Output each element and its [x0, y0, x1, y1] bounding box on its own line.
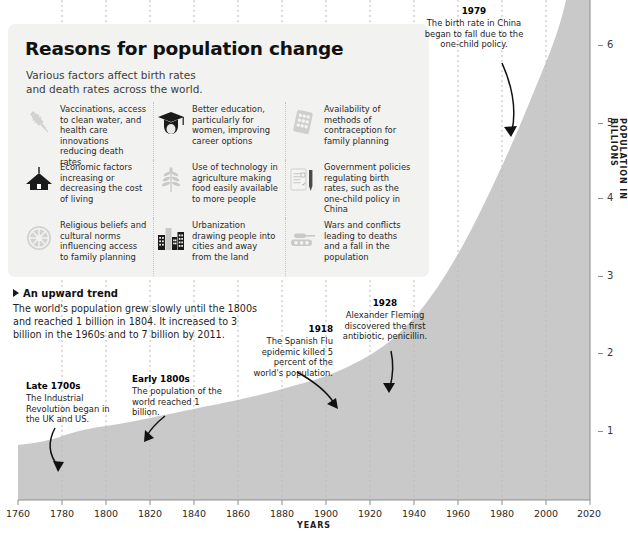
x-tick-1820: 1820: [138, 508, 162, 519]
x-tick-1980: 1980: [490, 508, 514, 519]
page-title: Reasons for population change: [25, 38, 343, 59]
svg-text:✓: ✓: [301, 180, 306, 187]
reason-item-contraception: Availability of methods of contraception…: [286, 102, 418, 160]
triangle-marker-icon: [13, 289, 19, 297]
prayer-wheel-icon: [22, 218, 56, 258]
x-tick-2020: 2020: [577, 508, 601, 519]
x-tick-1780: 1780: [50, 508, 74, 519]
reason-item-vaccinations: Vaccinations, access to clean water, and…: [22, 102, 154, 160]
reason-item-urbanization: Urbanization drawing people into cities …: [154, 218, 286, 276]
reason-item-government-policies: ✓ Government policies regulating birth r…: [286, 160, 418, 218]
annotation-late-1700s: Late 1700s The Industrial Revolution beg…: [26, 381, 118, 425]
reasons-panel: Reasons for population change Various fa…: [8, 24, 429, 277]
reason-item-agriculture: Use of technology in agriculture making …: [154, 160, 286, 218]
upward-trend-body: The world's population grew slowly until…: [13, 302, 263, 342]
annotation-text: The birth rate in China began to fall du…: [425, 18, 524, 50]
pill-pack-icon: [286, 102, 320, 142]
y-axis-title: POPULATION IN BILLIONS: [609, 118, 627, 248]
reason-item-education: Better education, particularly for women…: [154, 102, 286, 160]
reason-text: Vaccinations, access to clean water, and…: [60, 102, 147, 168]
x-tick-1880: 1880: [270, 508, 294, 519]
annotation-1979: 1979 The birth rate in China began to fa…: [424, 6, 524, 50]
panel-subtitle: Various factors affect birth rates and d…: [26, 68, 276, 96]
annotation-year: Early 1800s: [132, 374, 228, 385]
city-buildings-icon: [154, 218, 188, 258]
y-tick-2: 2: [598, 347, 614, 358]
reason-text: Government policies regulating birth rat…: [324, 160, 412, 215]
x-axis-title: YEARS: [297, 521, 331, 530]
reason-text: Use of technology in agriculture making …: [192, 160, 279, 204]
reason-item-economic: Economic factors increasing or decreasin…: [22, 160, 154, 218]
upward-trend-block: An upward trend The world's population g…: [13, 288, 263, 342]
house-icon: [22, 160, 56, 200]
annotation-text: The population of the world reached 1 bi…: [132, 386, 222, 418]
reason-text: Economic factors increasing or decreasin…: [60, 160, 147, 204]
annotation-text: The Industrial Revolution began in the U…: [26, 393, 110, 425]
x-tick-1760: 1760: [6, 508, 30, 519]
graduation-cap-icon: [154, 102, 188, 142]
y-tick-1: 1: [598, 425, 614, 436]
annotation-year: 1918: [247, 324, 333, 335]
upward-trend-heading-label: An upward trend: [23, 288, 118, 299]
reason-text: Urbanization drawing people into cities …: [192, 218, 279, 262]
y-tick-6: 6: [598, 39, 614, 50]
reasons-grid: Vaccinations, access to clean water, and…: [22, 102, 418, 276]
reason-item-religion: Religious beliefs and cultural norms inf…: [22, 218, 154, 276]
annotation-text: The Spanish Flu epidemic killed 5 percen…: [253, 336, 333, 378]
reason-text: Better education, particularly for women…: [192, 102, 279, 146]
x-tick-1940: 1940: [402, 508, 426, 519]
annotation-year: 1928: [333, 298, 437, 309]
reason-text: Wars and conflicts leading to deaths and…: [324, 218, 412, 262]
annotation-1918: 1918 The Spanish Flu epidemic killed 5 p…: [247, 324, 333, 379]
annotation-year: 1979: [424, 6, 524, 17]
x-tick-1960: 1960: [446, 508, 470, 519]
x-tick-1900: 1900: [314, 508, 338, 519]
document-pen-icon: ✓: [286, 160, 320, 200]
tank-icon: [286, 218, 320, 258]
reason-text: Religious beliefs and cultural norms inf…: [60, 218, 147, 262]
annotation-text: Alexander Fleming discovered the first a…: [343, 310, 427, 342]
annotation-1928: 1928 Alexander Fleming discovered the fi…: [333, 298, 437, 342]
x-tick-marks: [18, 500, 590, 505]
x-tick-1920: 1920: [358, 508, 382, 519]
annotation-early-1800s: Early 1800s The population of the world …: [132, 374, 228, 418]
reason-text: Availability of methods of contraception…: [324, 102, 412, 146]
x-tick-1800: 1800: [94, 508, 118, 519]
y-tick-3: 3: [598, 270, 614, 281]
annotation-year: Late 1700s: [26, 381, 118, 392]
upward-trend-heading: An upward trend: [13, 288, 263, 299]
syringe-icon: [22, 102, 56, 142]
wheat-icon: [154, 160, 188, 200]
x-tick-1840: 1840: [182, 508, 206, 519]
x-tick-1860: 1860: [226, 508, 250, 519]
x-tick-2000: 2000: [534, 508, 558, 519]
reason-item-wars: Wars and conflicts leading to deaths and…: [286, 218, 418, 276]
infographic-page: 6 5 4 3 2 1 POPULATION IN BILLIONS 1760 …: [0, 0, 628, 538]
